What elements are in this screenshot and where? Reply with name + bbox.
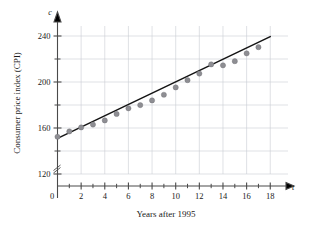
x-tick-label: 2 [79, 191, 83, 201]
x-tick-label: 18 [266, 191, 275, 201]
y-tick-label: 200 [38, 77, 51, 87]
y-tick-label: 240 [38, 31, 51, 41]
x-tick-label: 12 [195, 191, 204, 201]
x-tick-label: 6 [126, 191, 130, 201]
cpi-scatter-chart: 024681012141618120160200240 Years after … [0, 0, 320, 226]
x-axis-variable-symbol: t [292, 183, 295, 192]
data-point [256, 45, 261, 50]
data-point [232, 59, 237, 64]
data-point [55, 134, 60, 139]
x-tick-label: 8 [150, 191, 154, 201]
data-point [244, 51, 249, 56]
data-point [126, 106, 131, 111]
data-point [161, 92, 166, 97]
data-point [114, 111, 119, 116]
x-tick-label: 0 [50, 191, 54, 201]
data-point [149, 98, 154, 103]
data-point [185, 78, 190, 83]
data-point [90, 122, 95, 127]
data-point [173, 85, 178, 90]
x-tick-label: 16 [242, 191, 251, 201]
data-point [79, 125, 84, 130]
data-point [102, 118, 107, 123]
x-tick-label: 10 [171, 191, 180, 201]
x-tick-label: 14 [219, 191, 228, 201]
data-point [197, 71, 202, 76]
data-point [209, 62, 214, 67]
y-tick-label: 160 [38, 123, 51, 133]
x-tick-label: 4 [103, 191, 108, 201]
chart-canvas: 024681012141618120160200240 Years after … [0, 0, 320, 226]
data-point [220, 63, 225, 68]
tick-labels: 024681012141618120160200240 [38, 31, 275, 201]
data-point [67, 129, 72, 134]
y-tick-label: 120 [38, 169, 51, 179]
x-axis-title: Years after 1995 [136, 209, 196, 219]
y-axis-variable-symbol: c [48, 8, 52, 17]
trend-line [58, 37, 271, 139]
y-axis-title: Consumer price index (CPI) [12, 52, 22, 154]
gridlines [58, 26, 289, 174]
data-point [138, 103, 143, 108]
